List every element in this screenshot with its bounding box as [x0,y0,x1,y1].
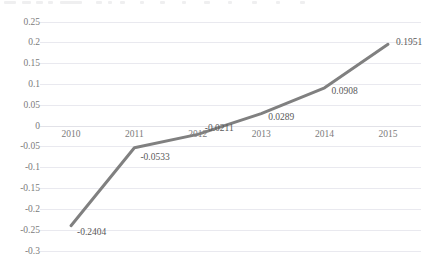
series-line-series1 [0,0,426,273]
data-label-2012: -0.0211 [205,123,234,134]
data-label-2011: -0.0533 [140,152,169,163]
data-label-2010: -0.2404 [77,227,106,238]
plot-area: 0.250.20.150.10.050-0.05-0.1-0.15-0.2-0.… [0,0,426,273]
line-chart: 0.250.20.150.10.050-0.05-0.1-0.15-0.2-0.… [0,0,426,273]
data-label-2014: 0.0908 [332,86,358,97]
data-label-2013: 0.0289 [268,112,294,123]
data-label-2015: 0.1951 [396,37,422,48]
